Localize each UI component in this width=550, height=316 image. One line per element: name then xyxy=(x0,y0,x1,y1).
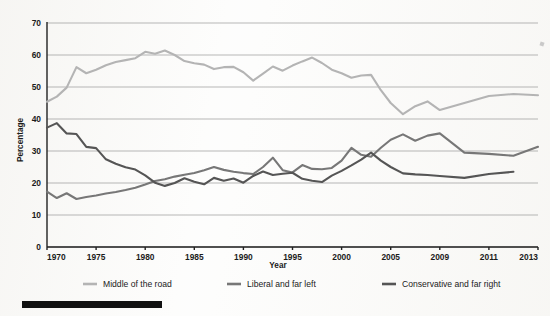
y-tick-label: 50 xyxy=(32,82,42,92)
x-tick-label: 2013 xyxy=(519,252,538,262)
gridlines xyxy=(47,23,538,247)
y-tick-label: 40 xyxy=(32,114,42,124)
y-tick-label: 0 xyxy=(36,242,41,252)
series-line-conservative-and-far-right xyxy=(47,123,513,186)
x-tick-label: 2011 xyxy=(480,252,499,262)
y-tick-label: 60 xyxy=(32,50,42,60)
x-tick-label: 1985 xyxy=(185,252,204,262)
chart-canvas: 706050403020100 197019751980198519901995… xyxy=(0,0,550,316)
legend-label: Middle of the road xyxy=(103,279,172,289)
y-axis-title: Percentage xyxy=(16,117,25,162)
black-rule-bar xyxy=(22,301,162,308)
legend-label: Liberal and far left xyxy=(247,279,316,289)
y-tick-label: 70 xyxy=(32,18,42,28)
legend-label: Conservative and far right xyxy=(402,279,501,289)
x-tick-label: 2009 xyxy=(430,252,449,262)
line-chart-figure: 706050403020100 197019751980198519901995… xyxy=(0,0,550,316)
chart-legend: Middle of the roadLiberal and far leftCo… xyxy=(83,279,501,289)
series-line-middle-of-the-road xyxy=(47,51,538,115)
x-axis-tick-labels: 1970197519801985199019952000200520092011… xyxy=(47,252,538,262)
x-tick-label: 2005 xyxy=(381,252,400,262)
x-tick-label: 2000 xyxy=(332,252,351,262)
x-tick-label: 1980 xyxy=(136,252,155,262)
y-tick-label: 20 xyxy=(32,178,42,188)
y-axis-tick-labels: 706050403020100 xyxy=(32,18,42,252)
x-tick-label: 1990 xyxy=(234,252,253,262)
chart-page: 706050403020100 197019751980198519901995… xyxy=(0,0,550,316)
y-tick-label: 30 xyxy=(32,146,42,156)
axis-lines xyxy=(47,22,538,247)
x-tick-label: 1970 xyxy=(47,252,66,262)
x-axis-title: Year xyxy=(269,261,287,270)
x-tick-label: 1975 xyxy=(87,252,106,262)
y-tick-label: 10 xyxy=(32,210,42,220)
data-series-lines xyxy=(47,51,538,199)
